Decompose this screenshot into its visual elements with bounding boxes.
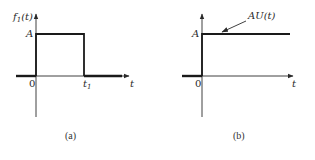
x-axis-label-b: t [292,78,297,89]
step-annotation-label: AU(t) [247,10,276,21]
panel-b: A 0 t AU(t) (b) [182,10,297,142]
signal-b-step [202,34,290,76]
panel-a: f1(t) A 0 t1 t (a) [12,11,135,142]
t1-label: t1 [83,78,92,91]
x-axis-label-a: t [130,78,135,89]
origin-label-a: 0 [29,78,35,89]
origin-label-b: 0 [195,78,201,89]
caption-b: (b) [233,130,245,142]
signal-a-pulse [36,34,84,76]
y-axis-label-a: f1(t) [12,11,33,24]
amplitude-label-a: A [25,28,33,39]
figure: f1(t) A 0 t1 t (a) A 0 t AU(t) (b) [0,0,315,160]
annotation-arrow-icon [222,21,246,32]
caption-a: (a) [65,130,76,142]
amplitude-label-b: A [191,28,199,39]
